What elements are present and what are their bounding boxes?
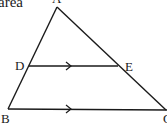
label-e: E: [125, 59, 133, 74]
side-bc: [8, 109, 167, 110]
label-a: A: [52, 0, 62, 6]
label-c: C: [163, 111, 167, 124]
side-ac: [57, 7, 166, 110]
caption-fragment: area: [0, 0, 23, 10]
label-b: B: [1, 111, 10, 124]
label-d: D: [15, 58, 24, 73]
triangle-diagram: area A D E B C: [0, 0, 167, 124]
